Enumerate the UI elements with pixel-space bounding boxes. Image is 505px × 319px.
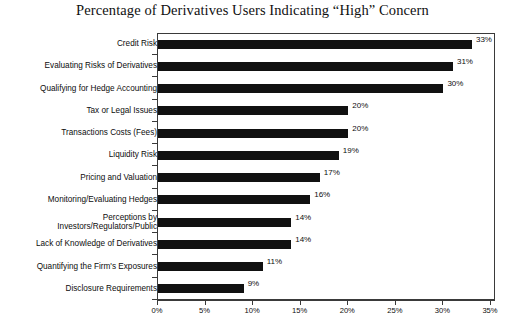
bar-row: Monitoring/Evaluating Hedges16% — [0, 189, 505, 211]
bar-fill — [158, 106, 348, 115]
category-label: Lack of Knowledge of Derivatives — [0, 239, 157, 248]
category-label: Disclosure Requirements — [0, 284, 157, 293]
bar — [158, 173, 320, 182]
category-label: Qualifying for Hedge Accounting — [0, 84, 157, 93]
bar-fill — [158, 84, 443, 93]
x-axis-tick — [252, 301, 253, 305]
bar — [158, 84, 443, 93]
x-axis-tick-label: 25% — [375, 306, 415, 315]
bar-value-label: 20% — [352, 124, 368, 133]
x-axis-tick-label: 5% — [185, 306, 225, 315]
bar-row: Credit Risk33% — [0, 33, 505, 55]
bar-value-label: 33% — [476, 35, 492, 44]
bar — [158, 62, 453, 71]
bar-fill — [158, 173, 320, 182]
bar-row: Pricing and Valuation17% — [0, 167, 505, 189]
bar-row: Disclosure Requirements9% — [0, 278, 505, 300]
bar-rows: Credit Risk33%Evaluating Risks of Deriva… — [0, 33, 505, 300]
category-label: Transactions Costs (Fees) — [0, 128, 157, 137]
x-axis-tick — [347, 301, 348, 305]
bar-value-label: 17% — [324, 168, 340, 177]
x-axis-tick — [395, 301, 396, 305]
category-label: Liquidity Risk — [0, 150, 157, 159]
bar-row: Lack of Knowledge of Derivatives14% — [0, 233, 505, 255]
bar — [158, 106, 348, 115]
bar — [158, 262, 263, 271]
bar-fill — [158, 40, 472, 49]
bar-value-label: 20% — [352, 101, 368, 110]
bar-fill — [158, 218, 291, 227]
x-axis-tick — [490, 301, 491, 305]
category-label: Quantifying the Firm's Exposures — [0, 262, 157, 271]
chart-title: Percentage of Derivatives Users Indicati… — [0, 2, 505, 19]
bar-value-label: 30% — [447, 79, 463, 88]
x-axis-tick-label: 15% — [280, 306, 320, 315]
bar — [158, 129, 348, 138]
bar-value-label: 14% — [295, 213, 311, 222]
bar — [158, 151, 339, 160]
bar-fill — [158, 240, 291, 249]
bar-row: Liquidity Risk19% — [0, 144, 505, 166]
x-axis-tick-label: 0% — [137, 306, 177, 315]
bar-value-label: 14% — [295, 235, 311, 244]
bar-value-label: 16% — [314, 190, 330, 199]
x-axis-tick-label: 10% — [232, 306, 272, 315]
bar-row: Perceptions by Investors/Regulators/Publ… — [0, 211, 505, 233]
category-label: Pricing and Valuation — [0, 173, 157, 182]
bar-fill — [158, 262, 263, 271]
x-axis-tick — [442, 301, 443, 305]
bar-fill — [158, 284, 244, 293]
category-label: Tax or Legal Issues — [0, 106, 157, 115]
bar-value-label: 9% — [248, 279, 260, 288]
x-axis-line — [157, 300, 495, 301]
x-axis-tick — [157, 301, 158, 305]
category-label: Evaluating Risks of Derivatives — [0, 61, 157, 70]
bar-row: Transactions Costs (Fees)20% — [0, 122, 505, 144]
x-axis-tick — [205, 301, 206, 305]
x-axis-tick — [300, 301, 301, 305]
bar-value-label: 11% — [267, 257, 282, 266]
bar — [158, 240, 291, 249]
bar-value-label: 31% — [457, 57, 473, 66]
category-label: Perceptions by Investors/Regulators/Publ… — [0, 213, 157, 231]
category-label: Monitoring/Evaluating Hedges — [0, 195, 157, 204]
bar-row: Tax or Legal Issues20% — [0, 100, 505, 122]
bar-fill — [158, 129, 348, 138]
bar — [158, 40, 472, 49]
bar-row: Qualifying for Hedge Accounting30% — [0, 78, 505, 100]
bar-fill — [158, 151, 339, 160]
bar-fill — [158, 195, 310, 204]
bar-row: Evaluating Risks of Derivatives31% — [0, 55, 505, 77]
bar — [158, 218, 291, 227]
bar-value-label: 19% — [343, 146, 359, 155]
x-axis-tick-label: 35% — [470, 306, 505, 315]
bar — [158, 284, 244, 293]
x-axis-tick-label: 30% — [422, 306, 462, 315]
bar-row: Quantifying the Firm's Exposures11% — [0, 256, 505, 278]
bar-fill — [158, 62, 453, 71]
category-label: Credit Risk — [0, 39, 157, 48]
bar — [158, 195, 310, 204]
x-axis-tick-label: 20% — [327, 306, 367, 315]
